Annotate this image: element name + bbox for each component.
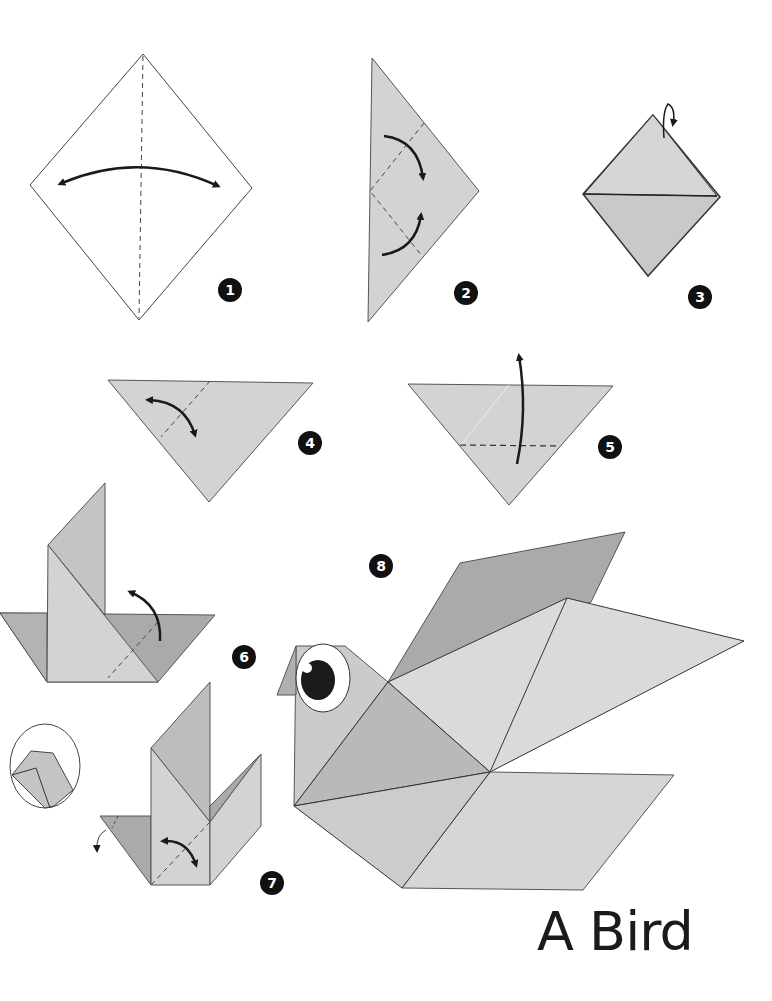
step-5 — [408, 356, 613, 505]
triangle-paper — [408, 384, 613, 505]
eye-highlight — [302, 663, 312, 673]
diagram-title: A Bird — [537, 905, 693, 959]
svg-text:7: 7 — [267, 875, 277, 891]
step-3 — [583, 104, 720, 276]
step-badge-5: 5 — [598, 435, 622, 459]
svg-text:8: 8 — [376, 558, 386, 574]
bird-beak — [277, 646, 296, 695]
step-badge-2: 2 — [454, 281, 478, 305]
left-flap — [100, 816, 151, 885]
step-badge-4: 4 — [298, 431, 322, 455]
reverse-fold-arrow-icon — [97, 830, 106, 850]
svg-text:5: 5 — [605, 439, 615, 455]
step-badge-1: 1 — [218, 278, 242, 302]
right-flap — [210, 754, 261, 885]
step-8-finished-bird — [277, 532, 744, 890]
diamond-top-flap — [584, 115, 717, 196]
svg-text:4: 4 — [305, 435, 315, 451]
step-badge-7: 7 — [260, 871, 284, 895]
step-badge-3: 3 — [688, 285, 712, 309]
svg-text:1: 1 — [225, 282, 235, 298]
svg-text:6: 6 — [239, 649, 249, 665]
step-badge-8: 8 — [369, 554, 393, 578]
step-1 — [30, 54, 252, 320]
svg-text:3: 3 — [695, 289, 705, 305]
origami-instructions: 1 2 3 4 5 6 7 8 — [0, 0, 772, 1001]
step-4 — [108, 380, 313, 502]
step-6 — [0, 483, 215, 682]
step-7 — [10, 682, 261, 885]
square-paper — [30, 54, 252, 320]
left-wing-flap — [0, 613, 47, 682]
triangle-paper — [108, 380, 313, 502]
step-badge-6: 6 — [232, 645, 256, 669]
svg-text:2: 2 — [461, 285, 471, 301]
